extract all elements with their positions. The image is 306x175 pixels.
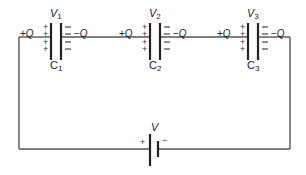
minus-charge-label: −Q <box>173 28 187 39</box>
capacitor-name-label: C2 <box>149 59 162 73</box>
minus-charge-label: −Q <box>74 28 88 39</box>
capacitor-name-label: C1 <box>50 59 63 73</box>
plate-plus-sign: + <box>43 44 48 54</box>
battery: V + − <box>140 121 167 166</box>
capacitor-voltage-label: V2 <box>149 7 161 21</box>
capacitor-name-label: C3 <box>247 59 260 73</box>
plate-plus-sign: + <box>142 44 147 54</box>
plus-charge-label: +Q <box>119 28 133 39</box>
plus-charge-label: +Q <box>217 28 231 39</box>
plus-charge-label: +Q <box>20 28 34 39</box>
capacitor-voltage-label: V3 <box>247 7 259 21</box>
capacitors: +++++Q−QV1C1+++++Q−QV2C2+++++Q−QV3C3 <box>20 7 285 73</box>
minus-charge-label: −Q <box>271 28 285 39</box>
battery-plus-sign: + <box>140 137 145 147</box>
capacitor-3: +++++Q−QV3C3 <box>217 7 285 73</box>
battery-minus-sign: − <box>162 135 167 145</box>
capacitor-voltage-label: V1 <box>50 7 62 21</box>
plate-plus-sign: + <box>240 44 245 54</box>
battery-label: V <box>151 121 160 133</box>
capacitor-1: +++++Q−QV1C1 <box>20 7 88 73</box>
capacitor-2: +++++Q−QV2C2 <box>119 7 187 73</box>
circuit-diagram: +++++Q−QV1C1+++++Q−QV2C2+++++Q−QV3C3 V +… <box>0 0 306 175</box>
